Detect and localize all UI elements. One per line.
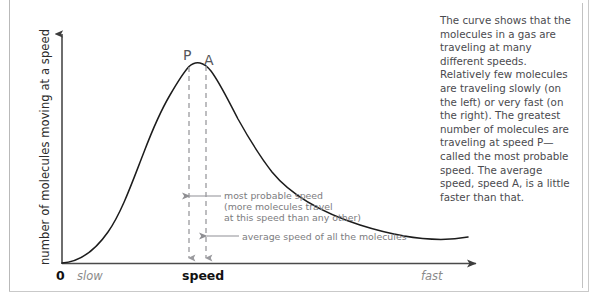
annotation-line-1: most probable speed: [224, 190, 361, 201]
annotation-line-3: at this speed than any other): [224, 212, 361, 223]
x-axis-label: speed: [182, 268, 224, 283]
marker-label-p: P: [183, 47, 191, 63]
x-axis-tick-slow: slow: [77, 269, 103, 283]
annotation-average-speed: average speed of all the molecules: [242, 231, 407, 242]
y-axis-label: number of molecules moving at a speed: [38, 22, 52, 272]
x-axis-tick-zero: 0: [56, 268, 65, 283]
marker-label-a: A: [204, 52, 214, 68]
figure-container: number of molecules moving at a speed 0 …: [0, 0, 599, 304]
x-axis-tick-fast: fast: [421, 269, 443, 283]
annotation-line-2: (more molecules travel: [224, 201, 361, 212]
annotation-most-probable-speed: most probable speed (more molecules trav…: [224, 190, 361, 224]
description-text: The curve shows that the molecules in a …: [440, 14, 576, 204]
description-paragraph: The curve shows that the molecules in a …: [440, 14, 576, 204]
